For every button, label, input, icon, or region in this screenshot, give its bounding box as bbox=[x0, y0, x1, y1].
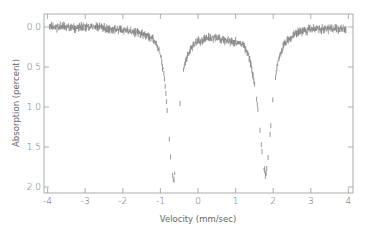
y-tick-label: 1.5 bbox=[27, 142, 41, 152]
y-axis-title: Absorption (percent) bbox=[11, 59, 21, 147]
y-axis-ticks: 0.00.51.01.52.0 bbox=[27, 22, 353, 192]
spectrum-points bbox=[50, 22, 346, 183]
spectrum-data-series bbox=[50, 22, 346, 183]
x-tick-label: 2 bbox=[270, 196, 276, 206]
x-tick-label: -2 bbox=[118, 196, 127, 206]
x-tick-label: 3 bbox=[308, 196, 314, 206]
y-tick-label: 0.0 bbox=[27, 22, 41, 32]
mossbauer-spectrum-chart: -4-3-2-101234 0.00.51.01.52.0 Velocity (… bbox=[0, 0, 369, 239]
x-tick-label: -3 bbox=[81, 196, 90, 206]
x-tick-label: 4 bbox=[346, 196, 352, 206]
y-tick-label: 0.5 bbox=[27, 62, 41, 72]
x-tick-label: 0 bbox=[195, 196, 201, 206]
y-tick-label: 1.0 bbox=[27, 102, 41, 112]
x-tick-label: -4 bbox=[43, 196, 52, 206]
y-tick-label: 2.0 bbox=[27, 182, 41, 192]
x-tick-label: -1 bbox=[156, 196, 165, 206]
x-axis-title: Velocity (mm/sec) bbox=[160, 214, 236, 224]
x-tick-label: 1 bbox=[233, 196, 239, 206]
